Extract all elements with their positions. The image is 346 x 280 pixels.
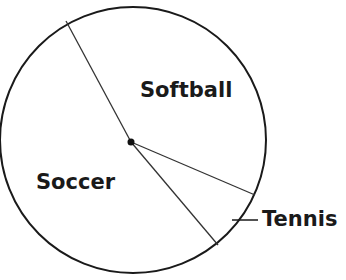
label-softball: Softball xyxy=(140,78,232,102)
label-soccer: Soccer xyxy=(36,170,115,194)
center-dot xyxy=(128,139,135,146)
label-tennis: Tennis xyxy=(262,207,337,231)
pie-chart xyxy=(0,0,346,280)
